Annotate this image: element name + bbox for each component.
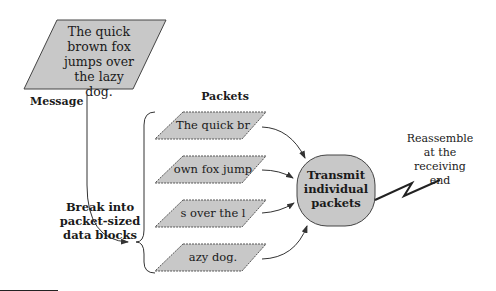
- packet-label-4: azy dog.: [168, 250, 258, 265]
- message-line-2: brown fox: [62, 39, 136, 54]
- packet-label-3: s over the l: [168, 206, 258, 221]
- message-label: Message: [30, 94, 80, 109]
- reassemble-text: Reassemble at the receiving end: [400, 132, 480, 188]
- packet-arrow-3: [262, 203, 294, 213]
- transmit-line-1: Transmit: [297, 168, 375, 182]
- packet-arrow-4: [262, 226, 307, 259]
- packet-arrow-1: [262, 127, 305, 158]
- transmit-text: Transmit individual packets: [297, 168, 375, 210]
- reassemble-line-2: at the: [400, 146, 480, 160]
- packets-title: Packets: [195, 89, 255, 104]
- packet-arrow-2: [262, 170, 293, 178]
- transmit-line-3: packets: [297, 196, 375, 210]
- packet-label-1: The quick br: [168, 118, 258, 133]
- packet-label-2: own fox jump: [168, 162, 258, 177]
- break-step-text: Break into packet-sized data blocks: [55, 200, 145, 242]
- reassemble-line-4: end: [400, 174, 480, 188]
- reassemble-line-3: receiving: [400, 160, 480, 174]
- message-line-3: jumps over: [62, 54, 136, 69]
- break-line-3: data blocks: [55, 228, 145, 242]
- message-text: The quick brown fox jumps over the lazy …: [62, 24, 136, 99]
- break-line-1: Break into: [55, 200, 145, 214]
- brace-icon: [136, 112, 155, 273]
- reassemble-line-1: Reassemble: [400, 132, 480, 146]
- message-line-1: The quick: [62, 24, 136, 39]
- break-line-2: packet-sized: [55, 214, 145, 228]
- transmit-line-2: individual: [297, 182, 375, 196]
